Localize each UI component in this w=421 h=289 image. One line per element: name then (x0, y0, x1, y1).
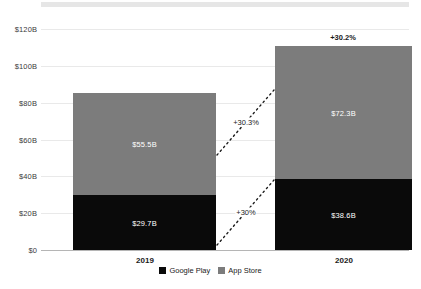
y-axis-tick-60: $60B (0, 136, 37, 145)
legend-swatch-icon-google-play (159, 267, 166, 274)
legend-item-google-play[interactable]: Google Play (159, 266, 210, 275)
legend-swatch-icon-app-store (218, 267, 225, 274)
growth-label-google-play: +30% (235, 208, 256, 217)
chart-legend: Google Play App Store (0, 266, 421, 275)
y-axis-tick-0: $0 (0, 246, 37, 255)
y-axis-tick-100: $100B (0, 62, 37, 71)
growth-connector-google-play (41, 14, 409, 254)
y-axis-tick-40: $40B (0, 172, 37, 181)
legend-label-app-store: App Store (228, 266, 261, 275)
legend-label-google-play: Google Play (169, 266, 210, 275)
y-axis-tick-120: $120B (0, 25, 37, 34)
plot-area: $55.5B $29.7B $72.3B $38.6B +30.2% +30.3… (41, 14, 409, 254)
y-axis-tick-20: $20B (0, 209, 37, 218)
stacked-bar-chart: $120B $100B $80B $60B $40B $20B $0 $55.5… (0, 0, 421, 289)
legend-item-app-store[interactable]: App Store (218, 266, 261, 275)
x-axis-tick-2020: 2020 (335, 256, 353, 265)
y-axis-tick-80: $80B (0, 99, 37, 108)
x-axis-tick-2019: 2019 (136, 256, 154, 265)
top-decorative-band (41, 2, 409, 7)
